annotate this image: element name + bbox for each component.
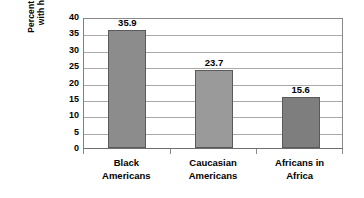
x-label-africans-in-africa-line-2: Africa: [256, 169, 343, 182]
x-axis-tick-marks: [83, 149, 343, 154]
x-label-caucasian-americans: Caucasian Americans: [170, 156, 257, 182]
bar-value-label-black-americans: 35.9: [118, 17, 137, 28]
x-tick-1: [170, 149, 171, 154]
y-tick-10: 10: [56, 110, 79, 121]
y-tick-30: 30: [56, 45, 79, 56]
y-tick-5: 5: [56, 127, 79, 138]
x-label-black-americans-line-2: Americans: [83, 169, 170, 182]
plot-area: 35.9 23.7 15.6: [83, 18, 343, 149]
y-tick-40: 40: [56, 12, 79, 23]
x-label-black-americans: Black Americans: [83, 156, 170, 182]
x-label-caucasian-americans-line-1: Caucasian: [170, 156, 257, 169]
x-tick-2: [256, 149, 257, 154]
y-axis-title-line-2: with hypertension: [36, 0, 47, 25]
y-axis-title-line-1: Percent of population: [26, 0, 37, 33]
y-tick-20: 20: [56, 78, 79, 89]
bar-value-label-caucasian-americans: 23.7: [205, 57, 224, 68]
bar-black-americans[interactable]: [108, 30, 146, 148]
x-label-black-americans-line-1: Black: [83, 156, 170, 169]
x-tick-start: [83, 149, 84, 154]
bar-value-label-africans-in-africa: 15.6: [291, 84, 310, 95]
bar-caucasian-americans[interactable]: [195, 70, 233, 148]
bars-layer: 35.9 23.7 15.6: [84, 19, 342, 148]
y-tick-35: 35: [56, 28, 79, 39]
x-label-caucasian-americans-line-2: Americans: [170, 169, 257, 182]
x-tick-end: [342, 149, 343, 154]
bar-slot-caucasian-americans: 23.7: [171, 19, 258, 148]
y-tick-15: 15: [56, 94, 79, 105]
x-axis-category-labels: Black Americans Caucasian Americans Afri…: [83, 156, 343, 194]
y-tick-0: 0: [56, 143, 79, 154]
bar-africans-in-africa[interactable]: [282, 97, 320, 148]
y-axis-title: Percent of population with hypertension: [14, 0, 58, 58]
y-tick-25: 25: [56, 61, 79, 72]
y-axis-tick-labels: 40 35 30 25 20 15 10 5 0: [56, 12, 79, 154]
bar-chart: Percent of population with hypertension …: [0, 0, 364, 198]
bar-slot-black-americans: 35.9: [84, 19, 171, 148]
bar-slot-africans-in-africa: 15.6: [257, 19, 344, 148]
x-label-africans-in-africa-line-1: Africans in: [256, 156, 343, 169]
x-label-africans-in-africa: Africans in Africa: [256, 156, 343, 182]
